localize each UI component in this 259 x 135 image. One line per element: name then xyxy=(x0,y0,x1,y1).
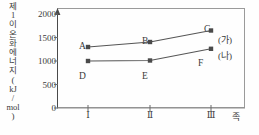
data-marker-a xyxy=(86,45,90,49)
data-marker-f xyxy=(209,47,213,51)
data-marker-c xyxy=(209,28,213,32)
data-marker-e xyxy=(148,58,152,62)
y-axis xyxy=(55,8,61,108)
data-marker-b xyxy=(148,40,152,44)
data-marker-d xyxy=(86,59,90,63)
chart-svg xyxy=(0,0,259,135)
series-line-na xyxy=(86,47,213,64)
chart-container: 제 1 이 온 화 에 너 지 ( kJ / mol ) 0 500 1000 … xyxy=(0,0,259,135)
series-line-ga xyxy=(86,28,213,49)
